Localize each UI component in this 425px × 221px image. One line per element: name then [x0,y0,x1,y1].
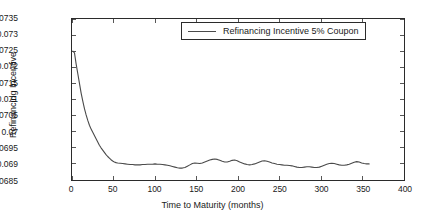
y-tick-label: 0.069 [0,160,18,169]
x-tick-label: 350 [343,185,383,194]
y-tick-label: 0.07 [0,128,18,137]
y-tick-label: 0.072 [0,62,18,71]
data-line-svg [72,19,404,180]
x-axis-label: Time to Maturity (months) [0,200,425,210]
x-tick-label: 50 [93,185,133,194]
x-tick-label: 400 [385,185,425,194]
y-tick-label: 0.0705 [0,111,18,120]
legend-line-swatch [188,31,216,32]
y-tick-label: 0.0725 [0,46,18,55]
y-tick-label: 0.0695 [0,144,18,153]
y-tick-label: 0.071 [0,95,18,104]
x-tick-label: 0 [51,185,91,194]
figure-canvas: Refinancing Incentive 0.06850.0690.06950… [0,0,425,221]
legend-entry-label: Refinancing Incentive 5% Coupon [223,27,359,36]
y-tick-label: 0.0685 [0,177,18,186]
y-tick-label: 0.0715 [0,79,18,88]
y-tick-label: 0.0735 [0,14,18,23]
x-tick-label: 300 [302,185,342,194]
x-tick-label: 200 [218,185,258,194]
x-tick-label: 150 [176,185,216,194]
x-tick-label: 100 [135,185,175,194]
plot-area [71,18,405,181]
x-tick-label: 250 [260,185,300,194]
y-tick-label: 0.073 [0,30,18,39]
legend-box: Refinancing Incentive 5% Coupon [181,22,366,40]
